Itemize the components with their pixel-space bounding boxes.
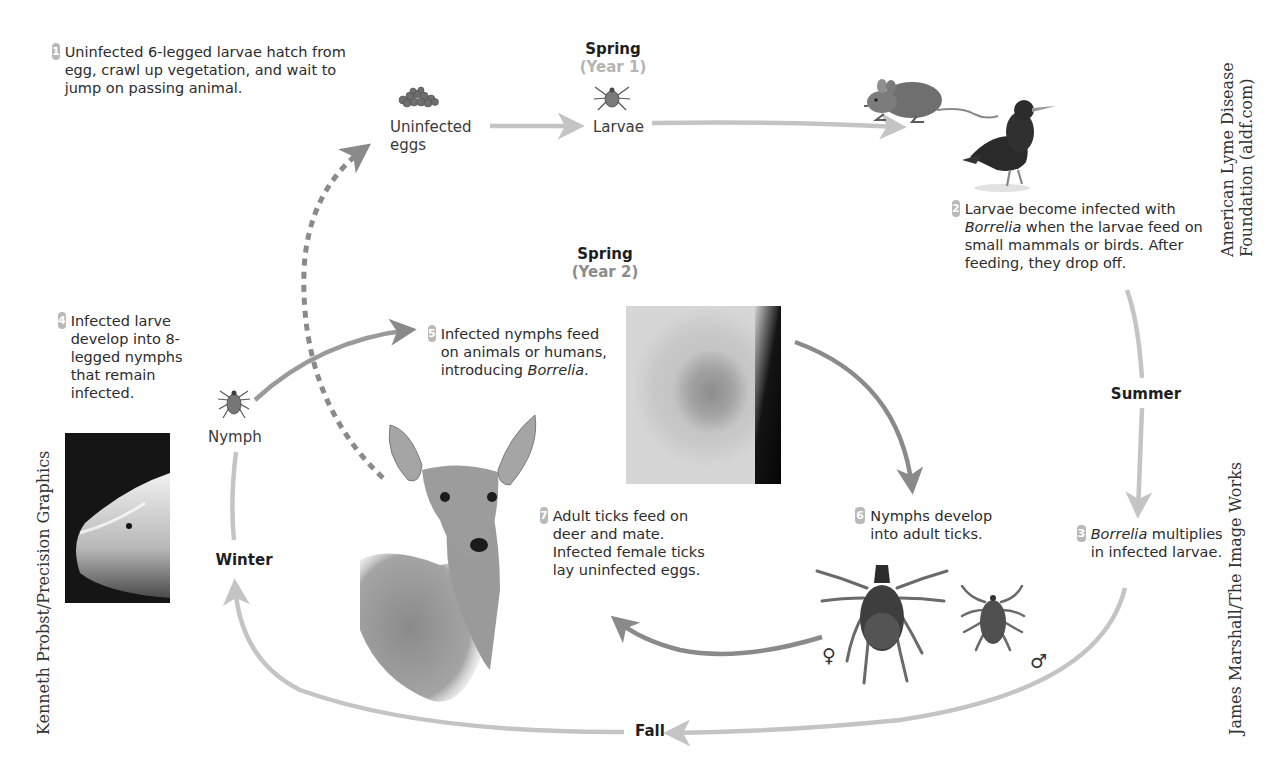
credit-kenneth-probst: Kenneth Probst/Precision Graphics xyxy=(34,451,53,735)
larva-icon xyxy=(592,83,632,115)
step-5-text: Infected nymphs feed on animals or human… xyxy=(441,325,608,379)
finger-image xyxy=(65,433,170,603)
step-4: 4 Infected larve develop into 8-legged n… xyxy=(58,312,208,402)
spring2-year: (Year 2) xyxy=(555,263,655,281)
arrow-step5-to-step6 xyxy=(795,342,912,488)
step-6-badge: 6 xyxy=(855,507,865,524)
step-5-text-post: . xyxy=(584,362,589,378)
rash-photo-shadow xyxy=(755,306,781,484)
step-7-text: Adult ticks feed on deer and mate. Infec… xyxy=(553,507,715,579)
step-4-badge: 4 xyxy=(58,312,66,329)
spring1-label: Spring xyxy=(578,40,648,58)
step-2-text: Larvae become infected with Borrelia whe… xyxy=(965,200,1207,272)
nymph-label: Nymph xyxy=(208,428,262,446)
arrow-step6-to-step7 xyxy=(616,620,822,654)
nymph-tick-icon xyxy=(216,385,252,421)
female-symbol: ♀ xyxy=(822,644,836,666)
step-1-text: Uninfected 6-legged larvae hatch from eg… xyxy=(65,43,372,97)
season-spring-year2: Spring (Year 2) xyxy=(555,245,655,281)
step-2-italic: Borrelia xyxy=(965,219,1022,235)
bullseye-rash-photo xyxy=(626,306,781,484)
step-6-text: Nymphs develop into adult ticks. xyxy=(870,507,1015,543)
step-7: 7 Adult ticks feed on deer and mate. Inf… xyxy=(540,507,715,579)
step-7-badge: 7 xyxy=(540,507,548,524)
adult-male-tick-icon xyxy=(958,580,1028,660)
step-5-italic: Borrelia xyxy=(527,362,584,378)
arrow-winter-to-nymph xyxy=(232,452,236,540)
eggs-label: Uninfected eggs xyxy=(390,118,472,154)
credit-aldf-line2: Foundation (aldf.com) xyxy=(1237,62,1256,257)
credit-aldf: American Lyme Disease Foundation (aldf.c… xyxy=(1218,62,1256,257)
step-3-italic: Borrelia xyxy=(1091,526,1148,542)
deer-icon xyxy=(350,410,555,710)
step-2: 2 Larvae become infected with Borrelia w… xyxy=(952,200,1207,272)
step-1-badge: 1 xyxy=(52,43,60,60)
season-summer: Summer xyxy=(1108,385,1184,403)
spring1-year: (Year 1) xyxy=(578,58,648,76)
male-symbol: ♂ xyxy=(1030,650,1047,672)
spring2-label: Spring xyxy=(555,245,655,263)
tick-on-finger-photo xyxy=(65,433,170,603)
step-3-text: Borrelia multiplies in infected larvae. xyxy=(1091,525,1227,561)
eggs-label-line2: eggs xyxy=(390,136,472,154)
step-3: 3 Borrelia multiplies in infected larvae… xyxy=(1077,525,1227,561)
step-3-badge: 3 xyxy=(1077,525,1086,542)
season-spring-year1: Spring (Year 1) xyxy=(578,40,648,76)
step-5: 5 Infected nymphs feed on animals or hum… xyxy=(428,325,608,379)
eggs-label-line1: Uninfected xyxy=(390,118,472,136)
step-4-text: Infected larve develop into 8-legged nym… xyxy=(71,312,208,402)
arrow-nymph-to-step5 xyxy=(255,330,410,400)
adult-female-tick-icon xyxy=(812,553,952,688)
step-5-badge: 5 xyxy=(428,325,436,342)
season-fall: Fall xyxy=(630,722,670,740)
larvae-label: Larvae xyxy=(593,118,644,136)
arrow-to-summer xyxy=(1127,290,1142,378)
step-2-badge: 2 xyxy=(952,200,960,217)
step-6: 6 Nymphs develop into adult ticks. xyxy=(855,507,1015,543)
credit-aldf-line1: American Lyme Disease xyxy=(1218,62,1237,257)
arrow-summer-to-step3 xyxy=(1138,408,1142,512)
credit-james-marshall: James Marshall/The Image Works xyxy=(1226,462,1245,735)
egg-cluster-icon xyxy=(395,86,441,110)
bird-icon xyxy=(962,92,1062,192)
step-2-text-pre: Larvae become infected with xyxy=(965,201,1176,217)
season-winter: Winter xyxy=(208,551,280,569)
step-1: 1 Uninfected 6-legged larvae hatch from … xyxy=(52,43,372,97)
